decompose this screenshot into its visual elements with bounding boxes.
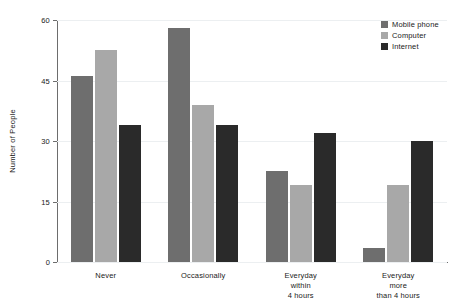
bar (266, 171, 288, 262)
x-tick-label: Everyday within 4 hours (276, 271, 325, 301)
bar-group-bars (57, 20, 155, 262)
bar (192, 105, 214, 262)
bar-chart: Number of People 015304560 NeverOccasion… (0, 0, 463, 302)
y-tick-label: 30 (41, 137, 50, 146)
bar (314, 133, 336, 262)
bar-group-bars (252, 20, 350, 262)
legend-swatch-icon (381, 32, 388, 39)
bar-group: Occasionally (155, 20, 253, 262)
bar (95, 50, 117, 262)
bar (71, 76, 93, 262)
plot-area: 015304560 NeverOccasionallyEveryday with… (57, 20, 447, 262)
bar (216, 125, 238, 262)
bar-group: Everyday more than 4 hours (350, 20, 448, 262)
bar (119, 125, 141, 262)
legend-label: Computer (392, 31, 426, 40)
y-tick-label: 60 (41, 16, 50, 25)
legend: Mobile phoneComputerInternet (381, 20, 439, 53)
legend-swatch-icon (381, 21, 388, 28)
x-tick-label: Everyday more than 4 hours (374, 271, 423, 301)
bar (387, 185, 409, 262)
legend-label: Internet (392, 42, 419, 51)
bar (168, 28, 190, 262)
legend-item[interactable]: Computer (381, 31, 439, 40)
bar-group-bars (155, 20, 253, 262)
legend-swatch-icon (381, 43, 388, 50)
legend-item[interactable]: Internet (381, 42, 439, 51)
y-tick-label: 15 (41, 197, 50, 206)
y-tick-mark (53, 262, 57, 263)
bar (411, 141, 433, 262)
bar-group: Everyday within 4 hours (252, 20, 350, 262)
gridline: 0 (57, 262, 447, 263)
bar (363, 248, 385, 262)
bar-group: Never (57, 20, 155, 262)
y-tick-label: 0 (46, 258, 50, 267)
legend-label: Mobile phone (392, 20, 439, 29)
legend-item[interactable]: Mobile phone (381, 20, 439, 29)
x-tick-label: Never (95, 271, 116, 281)
y-tick-label: 45 (41, 76, 50, 85)
bar-group-bars (350, 20, 448, 262)
y-axis-title: Number of People (8, 109, 17, 173)
bar (290, 185, 312, 262)
x-tick-label: Occasionally (181, 271, 225, 281)
